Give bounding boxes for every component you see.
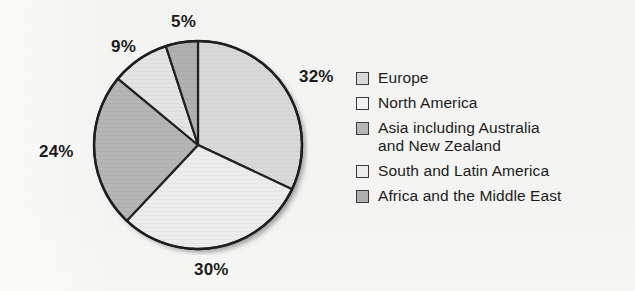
legend-label-line2: and New Zealand [378, 137, 540, 155]
legend-item-asia: Asia including Australia and New Zealand [356, 119, 628, 155]
pie-value-label-africa-middle-east: 5% [171, 13, 196, 30]
legend-item-south-latin-america: South and Latin America [356, 162, 628, 180]
pie-value-label-south-latin-america: 30% [194, 261, 229, 278]
legend-item-europe: Europe [356, 69, 628, 87]
legend-label-africa-middle-east: Africa and the Middle East [378, 187, 562, 205]
legend-label-south-latin-america: South and Latin America [378, 162, 549, 180]
legend-label-europe: Europe [378, 69, 429, 87]
legend-label-line1: North America [378, 94, 478, 111]
legend-swatch-europe [356, 72, 369, 85]
pie-svg [88, 35, 308, 255]
chart-legend: Europe North America Asia including Aust… [356, 69, 628, 205]
legend-label-asia: Asia including Australia and New Zealand [378, 119, 540, 155]
pie-value-label-north-america: 9% [111, 38, 136, 55]
legend-swatch-africa-middle-east [356, 190, 369, 203]
legend-item-africa-middle-east: Africa and the Middle East [356, 187, 628, 205]
legend-label-line1: Asia including Australia [378, 119, 540, 136]
legend-swatch-asia [356, 122, 369, 135]
legend-label-line1: South and Latin America [378, 162, 549, 179]
legend-item-north-america: North America [356, 94, 628, 112]
legend-label-line1: Africa and the Middle East [378, 187, 562, 204]
legend-swatch-north-america [356, 97, 369, 110]
legend-swatch-south-latin-america [356, 165, 369, 178]
legend-label-north-america: North America [378, 94, 478, 112]
legend-label-line1: Europe [378, 69, 429, 86]
pie-chart-graphic [88, 35, 308, 255]
pie-value-label-europe: 32% [299, 68, 334, 85]
pie-chart-figure: 32% 30% 24% 9% 5% Europe North America A… [0, 0, 635, 291]
pie-value-label-asia: 24% [39, 143, 74, 160]
